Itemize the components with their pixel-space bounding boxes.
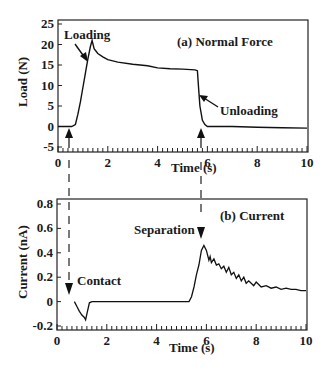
bottom-y-axis-title: Current (nA) — [15, 225, 30, 299]
unloading-label: Unloading — [220, 103, 278, 118]
y-tick-label: 0.6 — [37, 220, 54, 235]
contact-up-arrow-icon — [65, 128, 73, 148]
top-x-axis-title: Time (s) — [171, 160, 217, 175]
y-tick-label: 0.8 — [37, 196, 54, 211]
loading-arrow-icon — [75, 44, 88, 62]
top-plot-title: (a) Normal Force — [177, 34, 273, 49]
y-tick-label: 20 — [41, 37, 54, 52]
contact-down-arrow-icon — [65, 283, 73, 295]
separation-down-arrow-icon — [197, 227, 205, 239]
top-y-axis: -50510152025 — [41, 16, 62, 154]
x-tick-label: 4 — [153, 333, 160, 348]
x-tick-label: 0 — [55, 155, 62, 170]
contact-label: Contact — [77, 273, 122, 288]
normal-force-plot: -50510152025 0246810 (a) Normal Force Lo… — [15, 16, 314, 175]
separation-up-arrow-icon — [197, 128, 205, 148]
y-tick-label: -0.2 — [32, 318, 53, 333]
x-tick-label: 8 — [254, 155, 261, 170]
x-tick-label: 8 — [253, 333, 260, 348]
current-plot: -0.200.20.40.60.8 0246810 (b) Current Co… — [15, 196, 313, 355]
x-tick-label: 2 — [104, 333, 111, 348]
x-tick-label: 10 — [300, 333, 313, 348]
separation-label: Separation — [134, 222, 195, 237]
x-tick-label: 2 — [105, 155, 112, 170]
y-tick-label: 0.2 — [37, 269, 53, 284]
bottom-x-axis-title: Time (s) — [169, 340, 215, 355]
chart-figure: -50510152025 0246810 (a) Normal Force Lo… — [0, 0, 329, 377]
y-tick-label: -5 — [43, 139, 54, 154]
bottom-plot-title: (b) Current — [220, 208, 285, 223]
x-tick-label: 0 — [54, 333, 61, 348]
y-tick-label: 0.4 — [37, 245, 54, 260]
y-tick-label: 0 — [48, 119, 55, 134]
x-tick-label: 4 — [154, 155, 161, 170]
unloading-arrow-icon — [199, 95, 218, 107]
top-y-axis-title: Load (N) — [15, 57, 30, 107]
x-tick-label: 10 — [301, 155, 314, 170]
y-tick-label: 5 — [48, 98, 55, 113]
y-tick-label: 15 — [41, 57, 55, 72]
y-tick-label: 10 — [41, 78, 54, 93]
loading-label: Loading — [64, 27, 111, 42]
y-tick-label: 25 — [41, 16, 55, 31]
y-tick-label: 0 — [47, 294, 54, 309]
